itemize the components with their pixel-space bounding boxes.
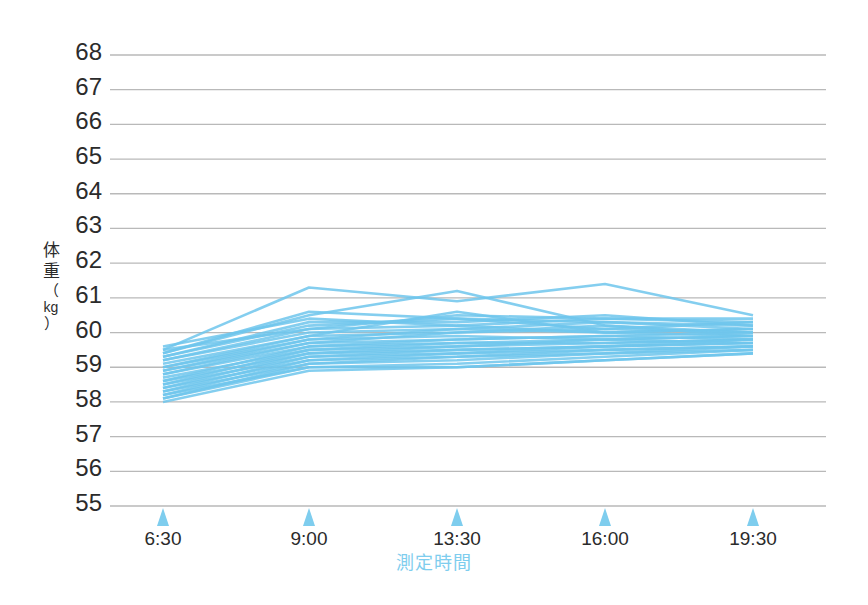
y-axis-tick-label: 59: [52, 350, 102, 378]
chart-canvas: [0, 0, 868, 605]
y-axis-tick-label: 60: [52, 316, 102, 344]
gridline-group: [110, 55, 826, 506]
y-axis-tick-label: 55: [52, 489, 102, 517]
y-axis-tick-label: 67: [52, 73, 102, 101]
y-axis-tick-label: 65: [52, 142, 102, 170]
x-axis-tick-label: 9:00: [264, 528, 354, 550]
y-axis-tick-label: 57: [52, 420, 102, 448]
x-axis-title: 測定時間: [0, 548, 868, 574]
x-tick-marker: [747, 508, 759, 526]
x-tick-marker: [303, 508, 315, 526]
x-tick-marker-group: [157, 508, 759, 526]
x-axis-tick-label: 6:30: [118, 528, 208, 550]
weight-time-line-chart: 体 重 （ kg ） 6867666564636261605958575655 …: [0, 0, 868, 605]
series-line-group: [163, 284, 753, 402]
y-axis-tick-label: 68: [52, 38, 102, 66]
y-axis-tick-label: 66: [52, 107, 102, 135]
x-tick-marker: [157, 508, 169, 526]
y-axis-tick-label: 58: [52, 385, 102, 413]
x-axis-tick-label: 13:30: [412, 528, 502, 550]
y-axis-tick-label: 61: [52, 281, 102, 309]
y-axis-tick-label: 62: [52, 246, 102, 274]
y-axis-tick-label: 64: [52, 177, 102, 205]
x-tick-marker: [451, 508, 463, 526]
y-axis-tick-label: 56: [52, 454, 102, 482]
y-axis-tick-label: 63: [52, 211, 102, 239]
x-axis-tick-label: 19:30: [708, 528, 798, 550]
x-tick-marker: [599, 508, 611, 526]
x-axis-tick-label: 16:00: [560, 528, 650, 550]
